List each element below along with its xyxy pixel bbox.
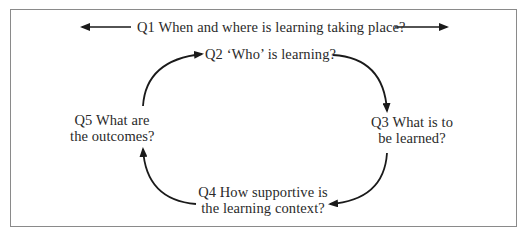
q1-label: Q1 When and where is learning taking pla… [137, 19, 406, 35]
q4-label-line2: the learning context? [198, 200, 328, 216]
q3-label-line1: Q3 What is to [368, 114, 456, 130]
q5-label-line2: the outcomes? [70, 128, 154, 144]
q5-label-line1: Q5 What are [70, 112, 154, 128]
arrow-q2-to-q3-icon [333, 55, 387, 111]
q2-label: Q2 ‘Who’ is learning? [205, 46, 336, 62]
q3-label: Q3 What is to be learned? [368, 114, 456, 146]
q4-label-line1: Q4 How supportive is [198, 184, 328, 200]
arrow-q4-to-q5-icon [143, 149, 196, 204]
arrow-q5-to-q2-icon [143, 54, 202, 106]
arrow-q3-to-q4-icon [330, 153, 387, 204]
q5-label: Q5 What are the outcomes? [70, 112, 154, 144]
q4-label: Q4 How supportive is the learning contex… [198, 184, 328, 216]
q3-label-line2: be learned? [368, 130, 456, 146]
